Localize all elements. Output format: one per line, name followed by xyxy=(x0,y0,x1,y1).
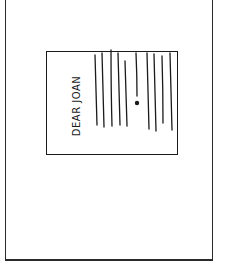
letter-text-lines xyxy=(0,0,226,279)
text-line xyxy=(170,53,172,130)
text-line xyxy=(136,53,137,96)
text-line xyxy=(118,53,120,125)
text-line xyxy=(95,55,97,125)
ink-blot-icon xyxy=(135,101,139,105)
text-line xyxy=(162,56,163,123)
text-line xyxy=(154,54,156,131)
text-line xyxy=(111,50,112,126)
text-line xyxy=(147,53,149,129)
text-line xyxy=(102,53,104,127)
text-line xyxy=(125,61,127,126)
